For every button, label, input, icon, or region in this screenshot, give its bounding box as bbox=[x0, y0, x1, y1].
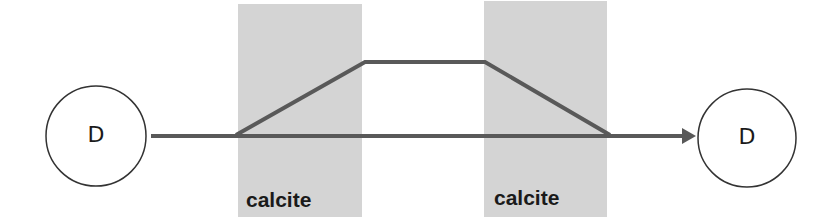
left-node-label: D bbox=[76, 122, 116, 147]
diagram-canvas bbox=[0, 0, 834, 217]
calcite-region-2 bbox=[484, 1, 607, 217]
calcite-region-1 bbox=[238, 4, 362, 217]
calcite-label-1: calcite bbox=[246, 188, 311, 212]
right-node-label: D bbox=[727, 124, 767, 149]
calcite-label-2: calcite bbox=[494, 186, 559, 210]
arrowhead-icon bbox=[682, 128, 696, 144]
